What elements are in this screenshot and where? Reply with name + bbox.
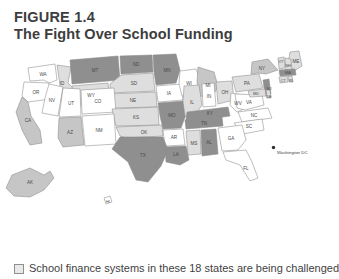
state-label-or: OR xyxy=(33,90,41,95)
state-label-ca: CA xyxy=(25,118,32,123)
state-label-id: ID xyxy=(60,81,65,86)
state-label-ny: NY xyxy=(259,66,265,71)
state-label-wa: WA xyxy=(39,72,47,77)
state-label-ky: KY xyxy=(207,111,213,116)
state-ok xyxy=(116,125,163,138)
state-label-ne: NE xyxy=(130,98,136,103)
legend-label: School finance systems in these 18 state… xyxy=(29,262,339,275)
state-label-wy: WY xyxy=(87,93,94,98)
state-label-ut: UT xyxy=(68,101,74,106)
state-label-ma: MA xyxy=(285,70,291,75)
state-label-wi: WI xyxy=(186,81,192,86)
state-label-ct: CT xyxy=(280,78,286,83)
state-label-tn: TN xyxy=(201,121,207,126)
state-label-nj: NJ xyxy=(267,86,272,91)
state-label-md: MD xyxy=(253,91,259,96)
state-label-de: DE xyxy=(266,94,272,99)
state-label-pa: PA xyxy=(244,81,251,86)
state-label-vt: VT xyxy=(279,59,285,64)
state-label-nd: ND xyxy=(133,62,140,67)
title-block: FIGURE 1.4 The Fight Over School Funding xyxy=(14,9,233,43)
state-label-mt: MT xyxy=(92,68,99,73)
state-label-nc: NC xyxy=(251,113,258,118)
state-label-ok: OK xyxy=(141,130,149,135)
state-fl xyxy=(223,150,258,181)
state-label-az: AZ xyxy=(67,130,73,135)
state-tx xyxy=(112,137,168,182)
state-label-tx: TX xyxy=(140,153,146,158)
state-label-oh: OH xyxy=(222,90,229,95)
state-label-ri: RI xyxy=(289,78,293,83)
page-title: The Fight Over School Funding xyxy=(14,26,233,43)
state-label-va: VA xyxy=(246,100,253,105)
dc-label: Washington DC xyxy=(277,150,308,155)
state-label-mi: MI xyxy=(205,83,210,88)
state-label-ms: MS xyxy=(191,141,198,146)
state-label-ks: KS xyxy=(133,115,139,120)
state-label-sd: SD xyxy=(131,81,138,86)
figure-number: FIGURE 1.4 xyxy=(14,9,233,25)
state-label-la: LA xyxy=(173,152,180,157)
state-label-fl: FL xyxy=(243,166,249,171)
state-label-il: IL xyxy=(190,100,194,105)
state-label-hi: HI xyxy=(106,199,110,204)
state-label-ak: AK xyxy=(27,180,34,185)
state-label-ga: GA xyxy=(228,136,236,141)
us-map-svg: WAORIDMTNDMNWYSDNEIAWIMINVUTCOKSMOILINOH… xyxy=(0,50,329,256)
legend-swatch-box xyxy=(14,264,24,274)
state-label-co: CO xyxy=(95,99,102,104)
state-label-nh: NH xyxy=(285,63,291,68)
state-label-nm: NM xyxy=(95,128,102,133)
us-map: WAORIDMTNDMNWYSDNEIAWIMINVUTCOKSMOILINOH… xyxy=(0,50,329,256)
legend: School finance systems in these 18 state… xyxy=(14,262,339,275)
dc-marker-group: Washington DC xyxy=(272,146,308,155)
state-label-mo: MO xyxy=(168,113,176,118)
state-label-ar: AR xyxy=(171,135,178,140)
state-label-mn: MN xyxy=(163,68,170,73)
state-label-me: ME xyxy=(293,59,300,64)
state-label-nv: NV xyxy=(49,98,56,103)
state-label-in: IN xyxy=(207,94,212,99)
state-label-wv: WV xyxy=(234,101,242,106)
state-label-al: AL xyxy=(206,140,212,145)
state-label-sc: SC xyxy=(246,124,253,129)
dc-dot-marker xyxy=(272,146,275,149)
